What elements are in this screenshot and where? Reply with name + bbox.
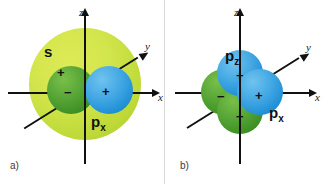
s-orbital-label: s xyxy=(44,44,52,59)
panel-a-stage: z y x s + − + px a) xyxy=(0,0,164,184)
s-orbital-plus-sign: + xyxy=(57,66,65,79)
px-orbital-label: px xyxy=(91,114,106,133)
pxb-negative-sign: − xyxy=(217,90,225,103)
pxb-orbital-label: px xyxy=(269,105,284,124)
panel-b-tag: b) xyxy=(180,160,189,171)
panel-a-tag: a) xyxy=(10,160,19,171)
axis-y-label-b: y xyxy=(306,41,311,53)
px-orbital-label-subscript: x xyxy=(100,122,106,133)
axis-x-label: x xyxy=(158,91,163,103)
pxb-orbital-label-base: p xyxy=(269,104,278,121)
pz-orbital-label-subscript: z xyxy=(234,56,239,67)
px-positive-sign: + xyxy=(102,85,110,98)
pxb-positive-sign: + xyxy=(255,89,263,102)
pxb-orbital-label-subscript: x xyxy=(278,113,284,124)
pz-orbital-label-base: p xyxy=(225,47,234,64)
axis-z-label: z xyxy=(79,6,83,18)
axis-z-line xyxy=(84,14,86,164)
panel-a: z y x s + − + px a) xyxy=(0,0,164,184)
axis-z-line-b xyxy=(239,14,241,164)
px-orbital-label-base: p xyxy=(91,113,100,130)
pz-positive-sign: + xyxy=(236,69,244,82)
axis-z-label-b: z xyxy=(234,6,238,18)
panel-b-stage: z y x pz px + − − + b) xyxy=(165,0,329,184)
panel-b: z y x pz px + − − + b) xyxy=(165,0,329,184)
pz-negative-sign: − xyxy=(236,110,244,123)
orbital-figure: z y x s + − + px a) xyxy=(0,0,329,184)
axis-y-label: y xyxy=(145,40,150,52)
axis-x-label-b: x xyxy=(315,91,320,103)
px-negative-sign: − xyxy=(64,86,72,99)
pz-orbital-label: pz xyxy=(225,48,239,67)
